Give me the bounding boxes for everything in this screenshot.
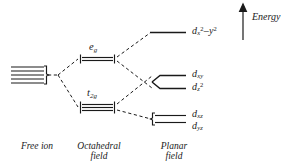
caption-free-ion-line1: Free ion — [21, 141, 53, 151]
orbital-label-dxz: dxz — [192, 109, 203, 120]
orbital-label-dxy-sub: xy — [197, 72, 203, 79]
free-ion-level-group — [11, 67, 44, 83]
energy-axis-label: Energy — [252, 12, 281, 22]
caption-octahedral-line1: Octahedral — [77, 141, 120, 151]
orbital-label-dxz-sub: xz — [197, 112, 203, 119]
planar-level-pair-dxz-dyz — [151, 113, 187, 125]
correlation-lines-octahedral-to-planar — [117, 33, 152, 119]
correlation-eg-to-dx2y2 — [117, 33, 150, 57]
term-label-eg: eg — [89, 42, 97, 54]
crystal-field-splitting-diagram: Energy eg t2g dx2–y2 dxy dz2 dxz dyz Fre… — [0, 0, 292, 164]
free-ion-right-brace-icon — [44, 66, 49, 84]
caption-octahedral-line2: field — [66, 152, 132, 162]
correlation-t2g-to-dxy — [117, 76, 152, 104]
energy-axis-arrow — [240, 4, 247, 40]
orbital-label-dz2: dz2 — [192, 82, 203, 93]
planar-level-pair-dxy-dz2 — [152, 76, 186, 89]
term-label-t2g: t2g — [87, 88, 97, 100]
caption-planar-line2: field — [146, 152, 202, 162]
orbital-label-dz2-sup: 2 — [200, 81, 203, 88]
diagram-canvas — [0, 0, 292, 164]
octahedral-t2g-level — [81, 102, 115, 114]
correlation-line-to-t2g — [58, 75, 78, 107]
caption-planar-line1: Planar — [161, 141, 187, 151]
correlation-lines-free-to-octahedral — [48, 59, 78, 107]
correlation-t2g-to-dxzyz — [117, 110, 151, 119]
term-label-eg-sub: g — [94, 46, 98, 54]
orbital-label-dyz-sub: yz — [197, 124, 203, 131]
orbital-label-dxy: dxy — [192, 69, 203, 80]
correlation-eg-to-dz2 — [117, 61, 152, 88]
planar-level-dxy — [152, 76, 186, 83]
caption-planar-field: Planar field — [146, 142, 202, 161]
caption-free-ion: Free ion — [6, 142, 68, 152]
up-arrow-icon — [240, 4, 247, 12]
orbital-label-dx2-y2: dx2–y2 — [192, 26, 217, 37]
octahedral-eg-level — [81, 55, 115, 64]
planar-level-dz2 — [152, 82, 186, 89]
planar-dxz-dyz-left-brace-icon — [151, 113, 156, 125]
correlation-line-to-eg — [58, 59, 78, 75]
caption-octahedral-field: Octahedral field — [66, 142, 132, 161]
term-label-t2g-sub: 2g — [90, 92, 97, 100]
orbital-label-dyz: dyz — [192, 121, 203, 132]
orbital-label-dx2-y2-sup2: 2 — [214, 25, 217, 32]
